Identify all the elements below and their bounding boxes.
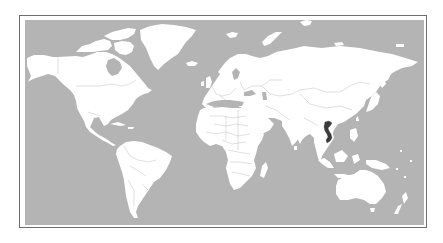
sri-lanka xyxy=(294,146,297,150)
world-map: Vietnam xyxy=(25,20,424,225)
